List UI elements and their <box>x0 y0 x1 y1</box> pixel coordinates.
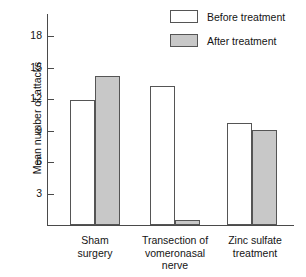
y-tick-label-9: 9 <box>36 125 42 136</box>
bar-transection-vomeronasal-nerve-after <box>175 220 200 225</box>
bar-transection-vomeronasal-nerve-before <box>150 86 175 225</box>
x-group-label-line: nerve <box>133 259 217 272</box>
bar-chart: Before treatment After treatment Mean nu… <box>0 0 306 277</box>
y-tick-15: 15 <box>47 68 54 69</box>
x-group-label-line: Zinc sulfate <box>215 234 295 247</box>
y-tick-9: 9 <box>47 131 54 132</box>
y-tick-6: 6 <box>47 162 54 163</box>
bar-sham-surgery-after <box>95 76 120 225</box>
bar-sham-surgery-before <box>70 100 95 225</box>
bar-zinc-sulfate-treatment-after <box>252 130 277 225</box>
x-group-label-sham-surgery: Sham surgery <box>55 234 135 259</box>
y-tick-18: 18 <box>47 36 54 37</box>
x-group-label-line: treatment <box>215 247 295 260</box>
plot-area: 3 6 9 12 15 18 Sham <box>47 14 294 226</box>
y-tick-label-18: 18 <box>30 30 42 41</box>
y-tick-label-15: 15 <box>30 62 42 73</box>
x-group-label-line: Transection of <box>133 234 217 247</box>
y-tick-12: 12 <box>47 99 54 100</box>
bar-zinc-sulfate-treatment-before <box>227 123 252 225</box>
x-group-label-line: vomeronasal <box>133 247 217 260</box>
y-tick-label-12: 12 <box>30 93 42 104</box>
y-axis-title: Mean number of attacks <box>31 33 43 203</box>
x-axis-line <box>47 225 294 226</box>
y-tick-3: 3 <box>47 194 54 195</box>
y-tick-label-6: 6 <box>36 156 42 167</box>
x-group-label-line: surgery <box>55 247 135 260</box>
x-group-label-zinc-sulfate-treatment: Zinc sulfate treatment <box>215 234 295 259</box>
x-group-label-line: Sham <box>55 234 135 247</box>
x-group-label-transection-vomeronasal-nerve: Transection of vomeronasal nerve <box>133 234 217 272</box>
y-tick-label-3: 3 <box>36 188 42 199</box>
